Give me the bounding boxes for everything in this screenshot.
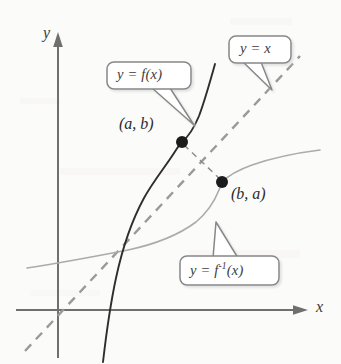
callout-yx-label: y = x	[240, 40, 271, 57]
inverse-function-figure: y x (a, b) (b, a) y = f(x) y = x y = f-1…	[0, 0, 341, 364]
callout-finv-exponent: -1	[219, 261, 227, 271]
point-ab-label: (a, b)	[119, 115, 154, 133]
figure-canvas	[0, 0, 341, 364]
callout-fx-arg: (x)	[146, 66, 163, 82]
x-axis-label: x	[316, 298, 323, 316]
callout-fx-label: y = f(x)	[117, 66, 162, 83]
callout-fx-lhs: y = f	[117, 66, 146, 82]
point-ab-marker	[176, 136, 188, 148]
point-ba-marker	[216, 176, 228, 188]
callout-finv-arg: (x)	[227, 262, 244, 278]
callout-finv-lhs: y = f	[190, 262, 219, 278]
callout-finv-label: y = f-1(x)	[190, 261, 244, 279]
y-axis-label: y	[43, 24, 50, 42]
point-ba-label: (b, a)	[231, 185, 266, 203]
